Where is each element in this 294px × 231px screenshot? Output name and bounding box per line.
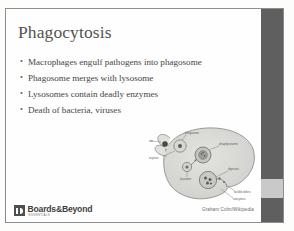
diagram-label-digestion: digestion (228, 167, 239, 171)
diagram-credit: Graham Colm/Wikipedia (202, 207, 254, 212)
bullet-list: • Macrophages engulf pathogens into phag… (20, 54, 235, 118)
phagosome-contents (178, 144, 182, 148)
bullet-item-1: • Macrophages engulf pathogens into phag… (20, 54, 235, 70)
diagram-label-lysosome: lysosome (180, 177, 192, 181)
phagocytosis-diagram: bacterium phagosome phagocytosis phagoly… (149, 122, 259, 204)
bullet-text-1: Macrophages engulf pathogens into phagos… (28, 54, 235, 70)
boards-and-beyond-logo: Boards&Beyond ESSENTIALS (14, 205, 92, 217)
bullet-marker-icon: • (20, 70, 28, 86)
bullet-marker-icon: • (20, 54, 28, 70)
bullet-text-2: Phagosome merges with lysosome (28, 70, 235, 86)
bullet-item-3: • Lysosomes contain deadly enzymes (20, 86, 235, 102)
logo-subtext: ESSENTIALS (29, 214, 93, 217)
soluble-debris-particle (223, 181, 225, 183)
bacterium-particle (162, 141, 167, 146)
bullet-text-4: Death of bacteria, viruses (28, 102, 235, 118)
bullet-text-3: Lysosomes contain deadly enzymes (28, 86, 235, 102)
diagram-label-phagosome: phagosome (185, 131, 200, 135)
logo-text-wrap: Boards&Beyond ESSENTIALS (28, 205, 93, 217)
logo-mark-icon (14, 205, 25, 216)
presentation-slide: Phagocytosis • Macrophages engulf pathog… (5, 8, 284, 223)
accent-band-segment-bottom (261, 198, 283, 223)
bullet-marker-icon: • (20, 86, 28, 102)
residual-body-vesicle (199, 171, 216, 188)
soluble-debris-particle (218, 177, 220, 179)
diagram-label-phagolysosome: phagolysosome (219, 142, 238, 146)
bullet-item-2: • Phagosome merges with lysosome (20, 70, 235, 86)
diagram-label-exocytosis: exocytosis (233, 197, 246, 201)
slide-accent-band (261, 9, 283, 222)
accent-band-segment-top (261, 9, 283, 179)
slide-title: Phagocytosis (18, 22, 112, 43)
accent-band-segment-light (261, 179, 283, 198)
bullet-marker-icon: • (20, 102, 28, 118)
diagram-label-phagocytosis: phagocytosis (149, 156, 159, 160)
scanned-slide-page: Phagocytosis • Macrophages engulf pathog… (0, 0, 294, 231)
diagram-label-soluble-debris: soluble debris (234, 190, 251, 194)
bullet-item-4: • Death of bacteria, viruses (20, 102, 235, 118)
lysosome-enzymes (185, 165, 188, 168)
